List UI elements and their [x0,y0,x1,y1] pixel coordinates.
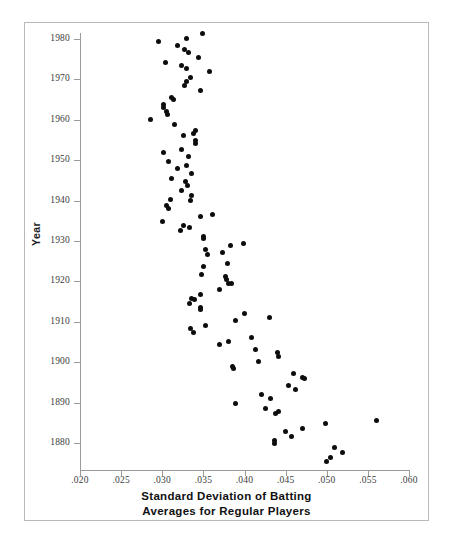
x-tick-label-.060: .060 [389,475,429,485]
data-point [182,83,187,88]
data-point [181,223,186,228]
data-point [300,426,305,431]
y-tick-label-1920: 1920 [36,275,70,285]
x-tick-label-.050: .050 [307,475,347,485]
data-point [188,198,193,203]
data-point [233,318,238,323]
y-tick-label-1900: 1900 [36,356,70,366]
data-point [217,342,222,347]
data-point [178,228,183,233]
data-point [207,69,212,74]
data-point [184,66,189,71]
y-tick-1930 [74,241,80,242]
data-point [198,292,203,297]
data-point [286,383,291,388]
y-tick-1900 [74,362,80,363]
y-axis-title: Year [30,222,42,246]
data-point [205,252,210,257]
data-point [210,212,215,217]
data-point [187,225,192,230]
data-point [189,171,194,176]
data-point [272,441,277,446]
data-point [156,39,161,44]
data-point [263,406,268,411]
y-tick-label-1910: 1910 [36,316,70,326]
x-tick-label-.040: .040 [225,475,265,485]
data-point [161,150,166,155]
data-point [199,272,204,277]
y-tick-1950 [74,160,80,161]
data-point [340,450,345,455]
y-tick-label-1950: 1950 [36,154,70,164]
data-point [184,36,189,41]
data-point [148,117,153,122]
data-point [283,429,288,434]
data-point [166,159,171,164]
data-point [256,359,261,364]
y-tick-label-1880: 1880 [36,437,70,447]
data-point [253,347,258,352]
data-point [217,287,222,292]
data-point [186,50,191,55]
data-point [201,264,206,269]
x-tick-label-.025: .025 [101,475,141,485]
data-point [198,214,203,219]
data-point [192,297,197,302]
x-axis-title-line-1: Standard Deviation of Batting [24,489,429,504]
y-tick-label-1970: 1970 [36,73,70,83]
data-point [328,455,333,460]
y-tick-label-1980: 1980 [36,33,70,43]
data-point [276,354,281,359]
data-point [201,236,206,241]
data-point [179,147,184,152]
data-point [249,335,254,340]
data-point [225,261,230,266]
data-point [332,445,337,450]
data-point [324,459,329,464]
data-point [268,396,273,401]
y-tick-1920 [74,281,80,282]
y-tick-label-1960: 1960 [36,114,70,124]
data-point [179,188,184,193]
x-tick-label-.045: .045 [266,475,306,485]
scatter-plot: 1880189019001910192019301940195019601970… [0,0,451,546]
data-point [259,392,264,397]
data-point [175,43,180,48]
data-point [168,197,173,202]
y-tick-1980 [74,39,80,40]
x-tick-label-.020: .020 [60,475,100,485]
data-point [229,281,234,286]
data-point [163,60,168,65]
data-point [374,418,379,423]
y-tick-1970 [74,79,80,80]
x-tick-label-.055: .055 [348,475,388,485]
data-point [184,163,189,168]
data-point [196,55,201,60]
y-tick-label-1890: 1890 [36,397,70,407]
figure-screenshot: 1880189019001910192019301940195019601970… [0,0,451,546]
data-point [323,421,328,426]
data-point [191,330,196,335]
data-point [233,401,238,406]
x-axis-title-line-2: Averages for Regular Players [24,504,429,519]
data-point [203,323,208,328]
y-tick-1960 [74,120,80,121]
data-point [273,411,278,416]
data-point [186,154,191,159]
data-point [166,206,171,211]
data-point [293,387,298,392]
data-point [226,339,231,344]
data-point [169,176,174,181]
data-point [181,133,186,138]
data-point [198,88,203,93]
y-tick-1890 [74,403,80,404]
data-point [165,112,170,117]
data-point [289,434,294,439]
data-point [198,307,203,312]
data-point [302,376,307,381]
data-point [193,141,198,146]
y-axis-line [80,33,81,470]
data-point [172,122,177,127]
data-point [191,131,196,136]
y-tick-1940 [74,201,80,202]
